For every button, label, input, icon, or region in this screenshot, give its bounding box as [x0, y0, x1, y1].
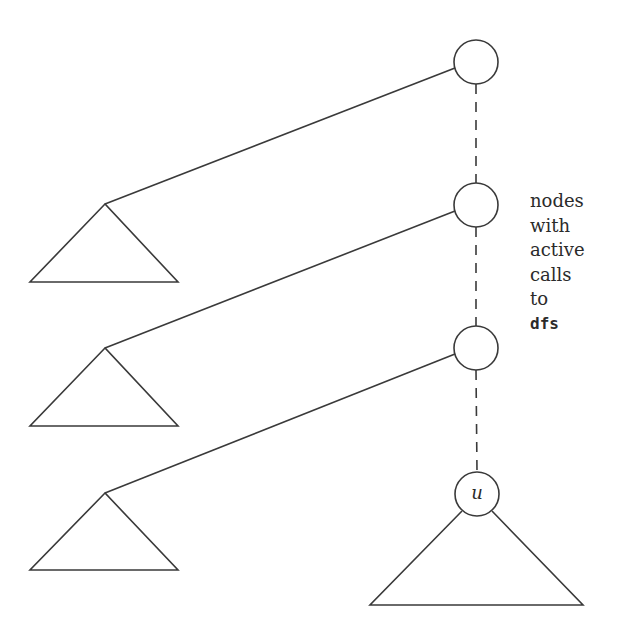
subtree-triangle-u [370, 511, 583, 605]
subtree-triangle-2 [30, 348, 178, 426]
edge-n3-subtree [105, 354, 455, 493]
active-calls-annotation: nodes with active calls to dfs [530, 189, 585, 336]
active-node-3 [454, 326, 498, 370]
edge-n2-subtree [105, 211, 455, 348]
dashed-path-3-u [476, 370, 477, 472]
active-node-1 [454, 40, 498, 84]
annotation-line-1: nodes [530, 189, 585, 214]
node-u-label: u [455, 482, 499, 503]
active-node-2 [454, 183, 498, 227]
subtree-triangle-1 [30, 204, 178, 282]
annotation-line-5: to [530, 287, 585, 312]
annotation-line-3: active [530, 238, 585, 263]
annotation-line-4: calls [530, 263, 585, 288]
annotation-code-dfs: dfs [530, 312, 585, 337]
annotation-line-2: with [530, 214, 585, 239]
edge-n1-subtree [105, 68, 455, 204]
subtree-triangle-3 [30, 493, 178, 570]
